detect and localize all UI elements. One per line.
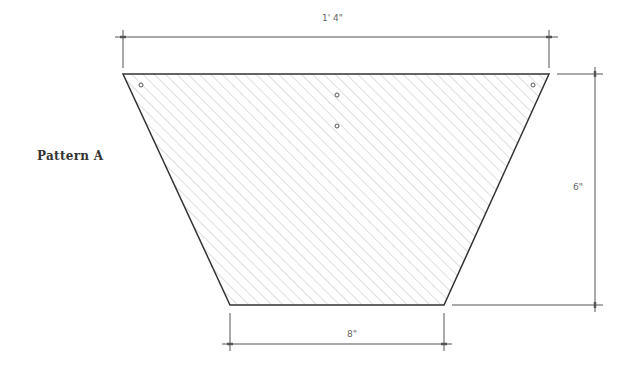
hole-center-lower xyxy=(335,124,339,128)
pattern-title: Pattern A xyxy=(37,149,103,163)
hole-top-left xyxy=(139,83,143,87)
dimension-height-label: 6" xyxy=(573,182,583,192)
dimension-bottom-label: 8" xyxy=(347,329,357,339)
drawing-svg xyxy=(0,0,636,366)
dimension-top-label: 1' 4" xyxy=(322,13,343,23)
pattern-shape xyxy=(123,74,549,305)
hole-top-right xyxy=(531,83,535,87)
pattern-drawing: Pattern A 1' 4" 6" 8" xyxy=(0,0,636,366)
dimension-top xyxy=(115,30,558,68)
dimension-bottom xyxy=(222,313,452,351)
hole-center-upper xyxy=(335,93,339,97)
